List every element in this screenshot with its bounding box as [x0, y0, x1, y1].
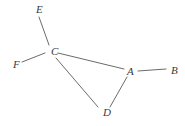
node-label-d: D — [102, 106, 111, 118]
edge-c-a — [58, 53, 124, 69]
node-label-f: F — [12, 58, 20, 70]
edge-e-c — [39, 17, 49, 45]
graph-diagram: ECFABD — [0, 0, 185, 126]
node-label-e: E — [35, 3, 43, 15]
node-label-b: B — [171, 64, 178, 76]
node-label-a: A — [126, 65, 134, 77]
edge-f-c — [22, 53, 45, 62]
edge-a-b — [138, 69, 166, 71]
nodes: ECFABD — [12, 3, 178, 118]
edges — [22, 17, 166, 107]
node-label-c: C — [51, 45, 59, 57]
edge-c-d — [56, 58, 98, 107]
graph-svg: ECFABD — [0, 0, 185, 126]
edge-a-d — [110, 77, 127, 107]
